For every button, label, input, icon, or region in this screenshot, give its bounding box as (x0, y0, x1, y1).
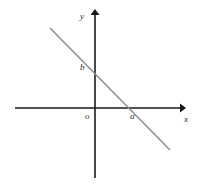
linear-function-line (50, 28, 170, 150)
graph-canvas (0, 0, 197, 194)
coordinate-plane-figure: y x b o a (0, 0, 197, 194)
x-axis-arrow-icon (180, 104, 186, 113)
y-axis-arrow-icon (91, 9, 100, 15)
origin-label: o (85, 112, 90, 121)
x-intercept-label: a (130, 112, 135, 121)
y-intercept-label: b (80, 63, 85, 72)
x-axis-label: x (184, 115, 188, 124)
y-axis-label: y (80, 12, 84, 21)
